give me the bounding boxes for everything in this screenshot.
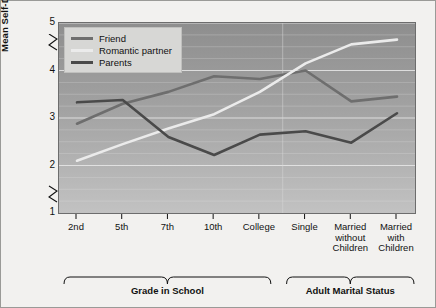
y-tick-label: 5 [35, 16, 55, 27]
x-axis-ticks: 2nd5th7th10thCollegeSingleMarriedwithout… [1, 219, 436, 265]
x-tick-label: MarriedwithChildren [367, 222, 425, 254]
series-line [77, 100, 397, 155]
y-axis-title: Mean Self-Disclosure Score [0, 0, 10, 53]
series-line [77, 71, 397, 124]
legend-swatch [71, 49, 93, 52]
group-label: Adult Marital Status [287, 285, 414, 296]
legend-item: Romantic partner [71, 44, 172, 56]
chart-figure: Mean Self-Disclosure Score 54321 FriendR… [0, 0, 436, 308]
chart-legend: FriendRomantic partnerParents [64, 27, 182, 73]
legend-label: Friend [99, 33, 126, 44]
legend-label: Parents [99, 57, 132, 68]
legend-swatch [71, 61, 93, 64]
legend-item: Friend [71, 32, 172, 44]
group-label: Grade in School [64, 285, 271, 296]
x-axis-group-brackets: Grade in SchoolAdult Marital Status [1, 263, 436, 307]
legend-label: Romantic partner [99, 45, 172, 56]
legend-swatch [71, 37, 93, 40]
legend-item: Parents [71, 56, 172, 68]
